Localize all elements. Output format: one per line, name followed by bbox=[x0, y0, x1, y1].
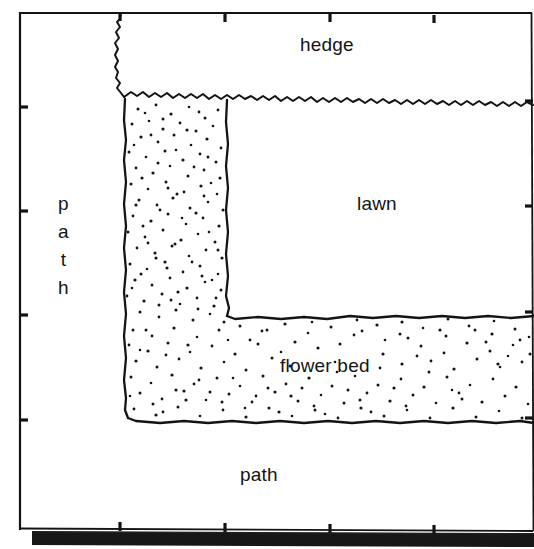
flower-bed-inner-vertical-edge bbox=[226, 100, 229, 316]
bottom-black-band bbox=[32, 531, 534, 547]
flower-bed-left-edge bbox=[124, 99, 136, 421]
flower-bed-inner-horizontal-edge bbox=[227, 316, 534, 319]
region-label-lawn: lawn bbox=[357, 193, 397, 215]
axis-ticks bbox=[20, 13, 533, 534]
path-letter-p: p bbox=[58, 190, 69, 218]
path-letter-a: a bbox=[58, 218, 69, 246]
path-letter-t: t bbox=[61, 246, 66, 274]
hedge-boundary-line bbox=[115, 13, 533, 106]
region-label-path-left: p a t h bbox=[58, 190, 69, 302]
region-label-flower-bed: flower bed bbox=[280, 355, 370, 377]
plot-frame bbox=[20, 13, 534, 531]
garden-plan-figure: hedge lawn flower bed path p a t h bbox=[0, 0, 534, 549]
region-label-path-bottom: path bbox=[240, 464, 278, 486]
region-label-hedge: hedge bbox=[300, 34, 354, 56]
flower-bed-bottom-edge bbox=[136, 421, 534, 423]
path-letter-h: h bbox=[58, 274, 69, 302]
